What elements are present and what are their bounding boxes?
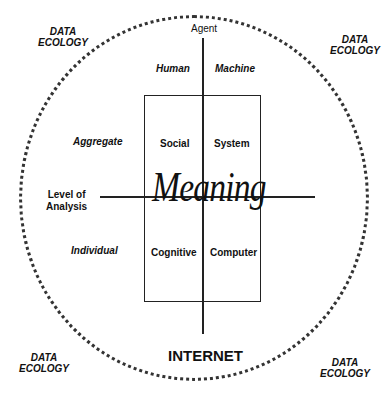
agent-axis-title: Agent [191, 23, 217, 35]
level-of-analysis-line2: Analysis [46, 201, 87, 213]
data-ecology-line1: DATA [330, 34, 380, 45]
data-ecology-label-bottom-right: DATA ECOLOGY [320, 357, 370, 379]
quadrant-computer: Computer [210, 247, 257, 259]
data-ecology-line2: ECOLOGY [38, 37, 88, 48]
individual-label: Individual [71, 245, 118, 257]
level-of-analysis-line1: Level of [46, 189, 87, 201]
data-ecology-line2: ECOLOGY [330, 45, 380, 56]
quadrant-social: Social [160, 138, 189, 150]
data-ecology-label-top-right: DATA ECOLOGY [330, 34, 380, 56]
data-ecology-line1: DATA [19, 352, 69, 363]
data-ecology-line2: ECOLOGY [320, 368, 370, 379]
data-ecology-line2: ECOLOGY [19, 363, 69, 374]
quadrant-system: System [214, 138, 250, 150]
internet-label: INTERNET [168, 347, 243, 364]
data-ecology-label-bottom-left: DATA ECOLOGY [19, 352, 69, 374]
data-ecology-line1: DATA [320, 357, 370, 368]
data-ecology-line1: DATA [38, 26, 88, 37]
level-of-analysis-title: Level of Analysis [46, 189, 87, 213]
meaning-center-label: Meaning [152, 164, 266, 210]
data-ecology-label-top-left: DATA ECOLOGY [38, 26, 88, 48]
aggregate-label: Aggregate [73, 136, 122, 148]
machine-label: Machine [215, 63, 255, 75]
quadrant-cognitive: Cognitive [151, 247, 197, 259]
human-label: Human [156, 63, 190, 75]
